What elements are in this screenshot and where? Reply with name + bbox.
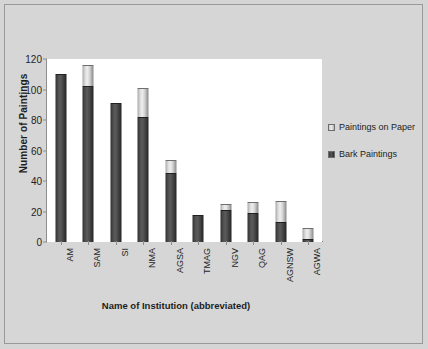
y-axis-title: Number of Paintings <box>18 54 29 194</box>
x-tick-mark <box>171 241 172 245</box>
bar-segment-paintings-on-paper[interactable] <box>275 201 286 222</box>
plot-area: 020406080100120 <box>47 59 322 242</box>
bar-slot <box>185 59 213 242</box>
chart-figure: Number of Paintings Name of Institution … <box>0 0 428 349</box>
stacked-bar[interactable] <box>138 88 149 242</box>
stacked-bar[interactable] <box>193 215 204 242</box>
stacked-bar[interactable] <box>275 201 286 242</box>
bar-slot <box>47 59 75 242</box>
x-tick-label: AGWA <box>312 248 322 275</box>
x-tick-mark <box>308 241 309 245</box>
x-tick-label: NMA <box>147 248 157 268</box>
legend-item[interactable]: Bark Paintings <box>328 149 426 159</box>
x-tick-mark <box>198 241 199 245</box>
bar-segment-paintings-on-paper[interactable] <box>303 228 314 239</box>
stacked-bar[interactable] <box>248 202 259 242</box>
stacked-bar[interactable] <box>110 103 121 242</box>
bar-slot <box>157 59 185 242</box>
bar-segment-bark-paintings[interactable] <box>275 222 286 242</box>
bar-segment-paintings-on-paper[interactable] <box>138 88 149 117</box>
x-tick-mark <box>116 241 117 245</box>
legend-item[interactable]: Paintings on Paper <box>328 122 426 132</box>
bar-slot <box>75 59 103 242</box>
bar-slot <box>130 59 158 242</box>
x-tick-mark <box>143 241 144 245</box>
stacked-bar[interactable] <box>303 228 314 242</box>
x-tick-label: NGV <box>230 248 240 268</box>
bar-slot <box>212 59 240 242</box>
x-tick-mark <box>281 241 282 245</box>
legend-swatch-icon <box>328 151 335 158</box>
x-tick-mark <box>226 241 227 245</box>
stacked-bar[interactable] <box>165 160 176 242</box>
legend-swatch-icon <box>328 124 335 131</box>
bar-segment-paintings-on-paper[interactable] <box>248 202 259 213</box>
bar-segment-bark-paintings[interactable] <box>165 173 176 242</box>
x-axis-title: Name of Institution (abbreviated) <box>30 300 322 311</box>
x-tick-mark <box>61 241 62 245</box>
bar-segment-bark-paintings[interactable] <box>193 215 204 242</box>
bar-segment-bark-paintings[interactable] <box>110 103 121 242</box>
x-tick-label: SAM <box>92 248 102 268</box>
x-tick-label: TMAG <box>202 248 212 274</box>
stacked-bar[interactable] <box>220 204 231 242</box>
bar-slot <box>102 59 130 242</box>
bar-segment-paintings-on-paper[interactable] <box>165 160 176 174</box>
x-tick-label: AGSA <box>175 248 185 273</box>
x-tick-label: SI <box>120 248 130 257</box>
x-tick-mark <box>88 241 89 245</box>
x-tick-mark <box>253 241 254 245</box>
chart-legend: Paintings on PaperBark Paintings <box>328 122 426 176</box>
x-tick-label: AGNSW <box>285 248 295 282</box>
bar-slot <box>240 59 268 242</box>
legend-label: Paintings on Paper <box>339 122 415 132</box>
bar-segment-paintings-on-paper[interactable] <box>83 65 94 86</box>
x-tick-label: AM <box>65 248 75 262</box>
bar-segment-bark-paintings[interactable] <box>248 213 259 242</box>
bar-slot <box>295 59 323 242</box>
stacked-bar[interactable] <box>55 74 66 242</box>
bar-slot <box>267 59 295 242</box>
bar-segment-bark-paintings[interactable] <box>220 210 231 242</box>
bar-segment-bark-paintings[interactable] <box>55 74 66 242</box>
stacked-bar[interactable] <box>83 65 94 242</box>
bar-segment-bark-paintings[interactable] <box>138 117 149 242</box>
legend-label: Bark Paintings <box>339 149 397 159</box>
bar-segment-bark-paintings[interactable] <box>83 86 94 242</box>
x-tick-label: QAG <box>257 248 267 268</box>
